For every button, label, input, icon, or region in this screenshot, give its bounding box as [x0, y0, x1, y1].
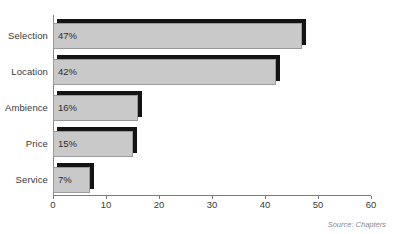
x-tick-label: 50 — [303, 199, 333, 210]
x-tick-label: 60 — [356, 199, 386, 210]
plot-area: 47%42%16%15%7% — [53, 15, 371, 195]
bar[interactable] — [53, 59, 276, 85]
category-label: Selection — [0, 30, 48, 41]
source-note: Source: Chapters — [328, 220, 386, 229]
bar[interactable] — [53, 23, 302, 49]
x-tick-label: 30 — [197, 199, 227, 210]
category-label: Price — [0, 138, 48, 149]
bar-value-label: 42% — [58, 66, 77, 77]
bar-value-label: 16% — [58, 102, 77, 113]
x-tick-label: 40 — [250, 199, 280, 210]
category-label: Ambience — [0, 102, 48, 113]
category-axis-labels: SelectionLocationAmbiencePriceService — [0, 15, 48, 195]
category-label: Location — [0, 66, 48, 77]
category-label: Service — [0, 174, 48, 185]
x-tick-label: 0 — [38, 199, 68, 210]
bar-value-label: 47% — [58, 30, 77, 41]
bar-value-label: 15% — [58, 138, 77, 149]
bar-value-label: 7% — [58, 174, 72, 185]
x-tick-label: 10 — [91, 199, 121, 210]
bar-chart: SelectionLocationAmbiencePriceService 47… — [0, 0, 394, 234]
x-tick-label: 20 — [144, 199, 174, 210]
